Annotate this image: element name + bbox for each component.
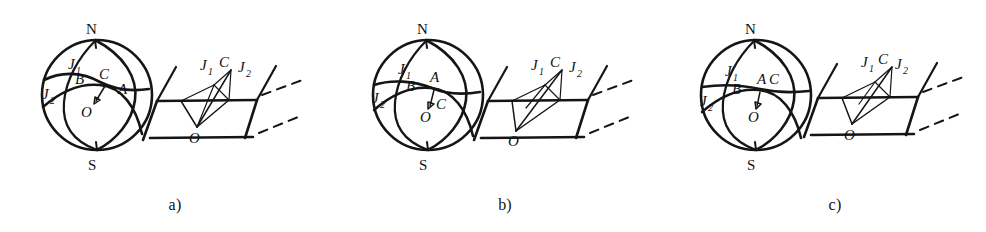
plane-label-j1-subscript: 1 (539, 66, 544, 77)
label-north-pole: N (417, 21, 428, 37)
plane-label-j1: J (531, 57, 539, 73)
panel-a: N S J 1 J 2 B C A O (0, 0, 330, 232)
plane-diagram-b: J 1 C J 2 O (474, 54, 636, 149)
plane-label-o: O (844, 127, 855, 143)
plane-label-o: O (189, 130, 200, 146)
plane-right-edge (245, 100, 257, 138)
panel-c-drawing: N S J 1 J 2 B A C O (656, 0, 986, 200)
panel-b-drawing: N S J 1 J 2 B A C O (328, 0, 658, 200)
label-south-pole: S (747, 157, 755, 173)
great-circle-meridian-2 (395, 41, 428, 150)
label-c: C (769, 71, 780, 87)
panel-a-caption: a) (0, 196, 340, 214)
plane-label-j2-subscript: 2 (903, 65, 908, 76)
panel-b: N S J 1 J 2 B A C O (328, 0, 658, 232)
component-right-side (560, 70, 562, 100)
plane-diagram-c: J 1 C J 2 O (804, 51, 966, 143)
plane-bottom-edge (481, 137, 584, 138)
plane-label-j1-subscript: 1 (869, 63, 874, 74)
plane-right-edge (576, 100, 588, 138)
label-south-pole: S (88, 157, 96, 173)
label-a: A (429, 69, 440, 85)
label-south-pole: S (419, 157, 427, 173)
component-edge-j1 (842, 82, 875, 98)
vector-o-to-j2foot (197, 100, 229, 127)
component-edge-j2 (545, 85, 560, 100)
label-j2-subscript: 2 (380, 99, 385, 110)
vector-o-to-j2foot (516, 100, 560, 131)
plane-bottom-edge (811, 134, 914, 135)
label-north-pole: N (86, 21, 97, 37)
plane-left-upper-extension (818, 64, 837, 98)
plane-label-j1: J (861, 54, 869, 70)
label-o-sphere: O (81, 104, 92, 120)
component-edge-j2 (875, 82, 890, 97)
radius-arrowhead (428, 102, 434, 109)
vector-o-to-j1foot (842, 98, 852, 124)
plane-label-c: C (219, 54, 230, 70)
label-b: B (75, 71, 84, 87)
label-north-pole: N (745, 21, 756, 37)
label-a: A (117, 81, 128, 97)
sphere-diagram-b: N S J 1 J 2 B A C O (372, 21, 483, 173)
panel-a-drawing: N S J 1 J 2 B C A O (0, 0, 330, 200)
great-circle-meridian (95, 40, 135, 150)
plane-left-upper-extension (157, 67, 176, 101)
label-b: B (732, 81, 741, 97)
dashed-extension-lower (920, 112, 964, 130)
plane-label-c: C (878, 51, 889, 67)
component-right-side (890, 67, 892, 97)
label-o-sphere: O (420, 109, 431, 125)
label-a: A (756, 71, 767, 87)
dashed-extension-lower (259, 115, 303, 133)
plane-label-o: O (508, 133, 519, 149)
plane-label-j2-subscript: 2 (246, 68, 251, 79)
vector-o-to-j1foot (181, 101, 197, 127)
label-o-sphere: O (748, 109, 759, 125)
figure-container: N S J 1 J 2 B C A O (0, 0, 986, 232)
label-j2-subscript: 2 (50, 95, 55, 106)
vector-oc (852, 67, 892, 124)
dashed-extension-lower (590, 115, 634, 133)
plane-bottom-edge (150, 137, 253, 138)
sphere-diagram-c: N S J 1 J 2 B A C O (700, 21, 811, 173)
vector-o-to-j1foot (512, 101, 516, 131)
plane-diagram-a: J 1 C J 2 O (143, 54, 305, 146)
panel-c-caption: c) (656, 196, 986, 214)
sphere-diagram-a: N S J 1 J 2 B C A O (42, 21, 152, 173)
plane-left-upper-extension (488, 67, 507, 101)
label-c: C (99, 66, 110, 82)
plane-label-j2: J (238, 59, 246, 75)
label-j2: J (372, 90, 380, 106)
component-edge-j1-upper (545, 70, 562, 85)
vector-oc (197, 70, 231, 127)
label-j2-subscript: 2 (708, 102, 713, 113)
plane-label-j1-subscript: 1 (208, 66, 213, 77)
plane-label-c: C (550, 54, 561, 70)
plane-label-j2-subscript: 2 (577, 68, 582, 79)
label-j2: J (42, 86, 50, 102)
label-c: C (436, 96, 447, 112)
panel-b-caption: b) (328, 196, 670, 214)
plane-right-upper-extension (588, 66, 607, 100)
plane-label-j2: J (569, 59, 577, 75)
plane-right-edge (906, 97, 918, 135)
radius-arrowhead (755, 102, 761, 109)
plane-label-j1: J (200, 57, 208, 73)
panel-c: N S J 1 J 2 B A C O (656, 0, 986, 232)
component-edge-j1-upper (214, 70, 231, 85)
label-b: B (406, 78, 415, 94)
plane-label-j2: J (895, 56, 903, 72)
plane-right-upper-extension (257, 66, 276, 100)
component-right-side (229, 70, 231, 100)
vector-o-to-j2foot (852, 97, 890, 124)
plane-right-upper-extension (918, 63, 937, 97)
